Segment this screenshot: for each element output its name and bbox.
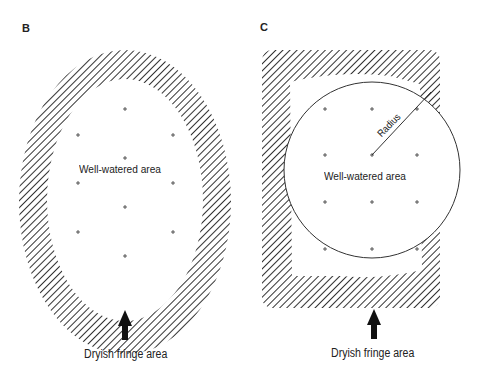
panel-c-diagram: [262, 50, 460, 339]
dryish-fringe-label-c: Dryish fringe area: [331, 346, 414, 360]
arrow-up-icon: [367, 309, 381, 339]
panel-b-diagram: [19, 50, 231, 354]
panel-label-b: B: [22, 22, 30, 34]
diagram-canvas: [0, 0, 497, 375]
panel-label-c: C: [260, 21, 268, 33]
well-watered-label-c: Well-watered area: [324, 170, 406, 182]
well-watered-oval: [47, 79, 203, 321]
dryish-fringe-label-b: Dryish fringe area: [84, 347, 167, 361]
well-watered-label-b: Well-watered area: [79, 163, 161, 175]
